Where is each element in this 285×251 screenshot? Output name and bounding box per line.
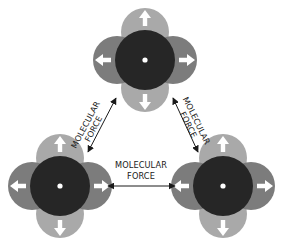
- molecule-top: [93, 8, 197, 112]
- force-label-bottom-line1: MOLECULAR: [115, 160, 167, 170]
- force-label-bottom: MOLECULAR FORCE: [115, 160, 167, 181]
- molecule-bottom-left: [8, 134, 112, 238]
- force-label-right: MOLECULAR FORCE: [173, 95, 213, 150]
- force-label-left: MOLECULAR FORCE: [69, 99, 110, 154]
- molecule-bottom-right: [171, 134, 275, 238]
- molecular-force-diagram: MOLECULAR FORCE MOLECULAR FORCE MOLECULA…: [0, 0, 285, 251]
- force-label-bottom-line2: FORCE: [127, 171, 155, 181]
